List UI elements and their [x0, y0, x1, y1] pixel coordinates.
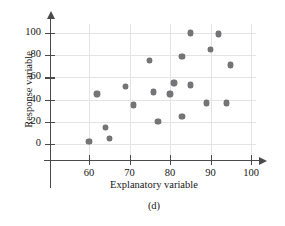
y-axis-tick-mark	[45, 33, 55, 34]
data-point	[103, 125, 108, 130]
x-axis-line	[44, 160, 262, 161]
gridline-vertical	[211, 24, 212, 160]
x-axis-tick-mark	[130, 155, 131, 165]
y-axis-label: Response variable	[23, 26, 34, 154]
gridline-vertical	[130, 24, 131, 160]
gridline-horizontal	[50, 122, 256, 123]
y-axis-arrow-icon	[47, 11, 55, 19]
gridline-horizontal	[50, 33, 256, 34]
data-point	[188, 82, 193, 87]
x-axis-tick-mark	[89, 155, 90, 165]
data-point	[171, 80, 176, 85]
x-axis-tick-label: 100	[236, 167, 266, 178]
x-axis-tick-mark	[170, 155, 171, 165]
x-axis-tick-label: 80	[155, 167, 185, 178]
data-point	[179, 114, 184, 119]
y-axis-tick-mark	[45, 100, 55, 101]
data-point	[224, 100, 229, 105]
data-point	[151, 89, 156, 94]
data-point	[167, 91, 172, 96]
y-axis-tick-mark	[45, 122, 55, 123]
data-point	[131, 102, 136, 107]
gridline-horizontal	[50, 144, 256, 145]
data-point	[123, 84, 128, 89]
scatterplot-figure: 020406080100 60708090100 Response variab…	[0, 0, 285, 226]
gridline-horizontal	[50, 77, 256, 78]
data-point	[179, 54, 184, 59]
y-axis-line	[50, 18, 51, 188]
x-axis-label: Explanatory variable	[50, 179, 258, 190]
y-axis-tick-mark	[45, 55, 55, 56]
y-axis-tick-mark	[45, 144, 55, 145]
gridline-vertical	[251, 24, 252, 160]
data-point	[94, 91, 99, 96]
data-point	[208, 47, 213, 52]
x-axis-tick-mark	[251, 155, 252, 165]
y-axis-tick-mark	[45, 77, 55, 78]
panel-caption: (d)	[50, 200, 258, 211]
data-point	[155, 119, 160, 124]
data-point	[204, 100, 209, 105]
data-point	[147, 58, 152, 63]
x-axis-tick-label: 90	[196, 167, 226, 178]
x-axis-tick-label: 70	[115, 167, 145, 178]
x-axis-tick-label: 60	[74, 167, 104, 178]
x-axis-arrow-icon	[259, 157, 267, 165]
x-axis-tick-mark	[211, 155, 212, 165]
data-point	[107, 136, 112, 141]
gridline-horizontal	[50, 55, 256, 56]
data-point	[228, 62, 233, 67]
data-point	[188, 30, 193, 35]
plot-area: 020406080100 60708090100	[0, 0, 285, 226]
data-point	[216, 31, 221, 36]
